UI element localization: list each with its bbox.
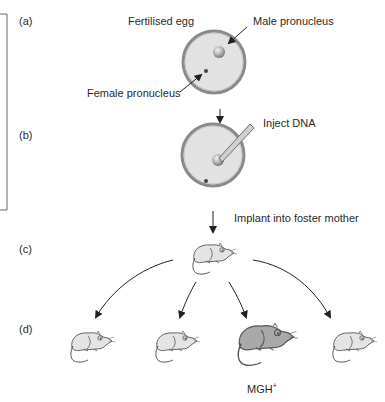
implant-label: Implant into foster mother — [234, 212, 359, 225]
offspring-mouse-4 — [333, 331, 377, 362]
fertilised-egg-a — [183, 31, 245, 93]
frame-edge — [0, 14, 7, 210]
offspring-mouse-2 — [156, 331, 200, 362]
offspring-mouse-3-transgenic — [238, 323, 298, 365]
step-label-d: (d) — [19, 323, 32, 335]
offspring-mouse-1 — [71, 331, 115, 362]
foster-mother-mouse — [193, 243, 237, 274]
fertilised-egg-label: Fertilised egg — [128, 15, 194, 28]
arrow-to-pup-1 — [96, 260, 173, 317]
mgh-text: MGH — [247, 383, 273, 395]
inject-dna-label: Inject DNA — [263, 117, 316, 130]
male-pronucleus-a — [213, 46, 225, 58]
arrow-to-pup-4 — [253, 260, 330, 317]
arrow-to-pup-3 — [229, 282, 246, 317]
mgh-superscript: + — [273, 382, 277, 389]
diagram-canvas — [0, 0, 385, 402]
female-pronucleus-b — [204, 179, 208, 183]
female-pronucleus-a — [204, 69, 208, 73]
mgh-positive-label: MGH+ — [247, 379, 277, 396]
arrow-to-pup-2 — [180, 282, 196, 317]
female-pronucleus-label: Female pronucleus — [87, 87, 181, 100]
fertilised-egg-b — [182, 124, 254, 186]
step-label-a: (a) — [19, 15, 32, 27]
step-label-b: (b) — [19, 129, 32, 141]
step-label-c: (c) — [19, 243, 32, 255]
male-pronucleus-label: Male pronucleus — [253, 15, 334, 28]
